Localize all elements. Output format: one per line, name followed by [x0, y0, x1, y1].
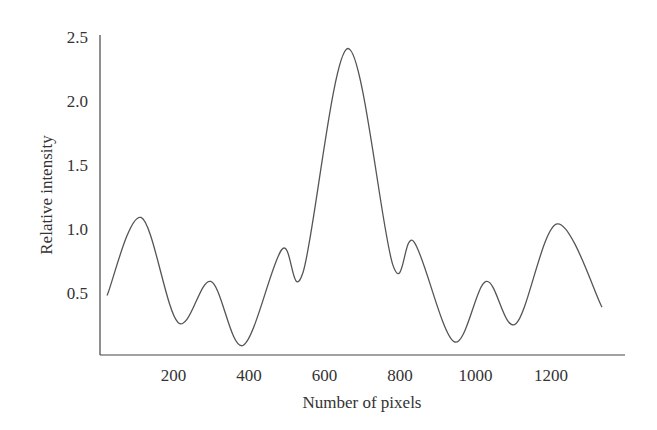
y-axis-label: Relative intensity — [37, 135, 56, 255]
x-tick-label: 600 — [312, 366, 338, 385]
x-tick-label: 200 — [161, 366, 187, 385]
x-tick-label: 1000 — [459, 366, 493, 385]
x-axis-label: Number of pixels — [303, 393, 422, 412]
y-tick-label: 1.0 — [67, 220, 88, 239]
y-tick-labels: 0.51.01.52.02.5 — [67, 28, 88, 303]
x-tick-label: 400 — [236, 366, 262, 385]
y-tick-label: 2.0 — [67, 92, 88, 111]
x-tick-label: 800 — [387, 366, 413, 385]
intensity-curve — [107, 49, 602, 346]
y-tick-label: 0.5 — [67, 284, 88, 303]
x-tick-labels: 20040060080010001200 — [161, 366, 568, 385]
line-chart: 0.51.01.52.02.5 20040060080010001200 Rel… — [0, 0, 657, 430]
y-tick-label: 2.5 — [67, 28, 88, 47]
y-tick-label: 1.5 — [67, 156, 88, 175]
x-tick-label: 1200 — [534, 366, 568, 385]
axes — [100, 35, 625, 355]
